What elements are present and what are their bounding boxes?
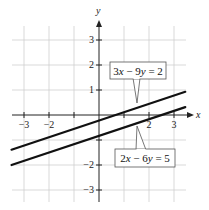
- x-tick-label: 3: [172, 119, 177, 130]
- x-tick-label: −2: [44, 119, 55, 130]
- y-tick-label: 3: [89, 34, 94, 45]
- y-tick-label: 2: [89, 59, 94, 70]
- y-tick-label: −3: [83, 184, 94, 195]
- x-axis-label: x: [195, 109, 201, 120]
- eq2-label: 2x − 6y = 5: [120, 152, 170, 164]
- y-axis-label: y: [95, 5, 101, 16]
- x-axis-arrow-icon: [187, 112, 194, 118]
- x-tick-label: −3: [19, 119, 30, 130]
- y-tick-label: 1: [89, 84, 94, 95]
- eq1-label: 3x − 9y = 2: [113, 65, 163, 77]
- y-axis-arrow-icon: [96, 20, 102, 27]
- y-tick-label: −2: [83, 159, 94, 170]
- chart: x y −3 −2 2 3 3 2 1 −2 −3 3x − 9y = 2 2x…: [0, 0, 209, 210]
- line-3x-9y-2: [12, 92, 186, 150]
- callout-eq1: 3x − 9y = 2: [110, 62, 166, 103]
- axes: [12, 24, 190, 202]
